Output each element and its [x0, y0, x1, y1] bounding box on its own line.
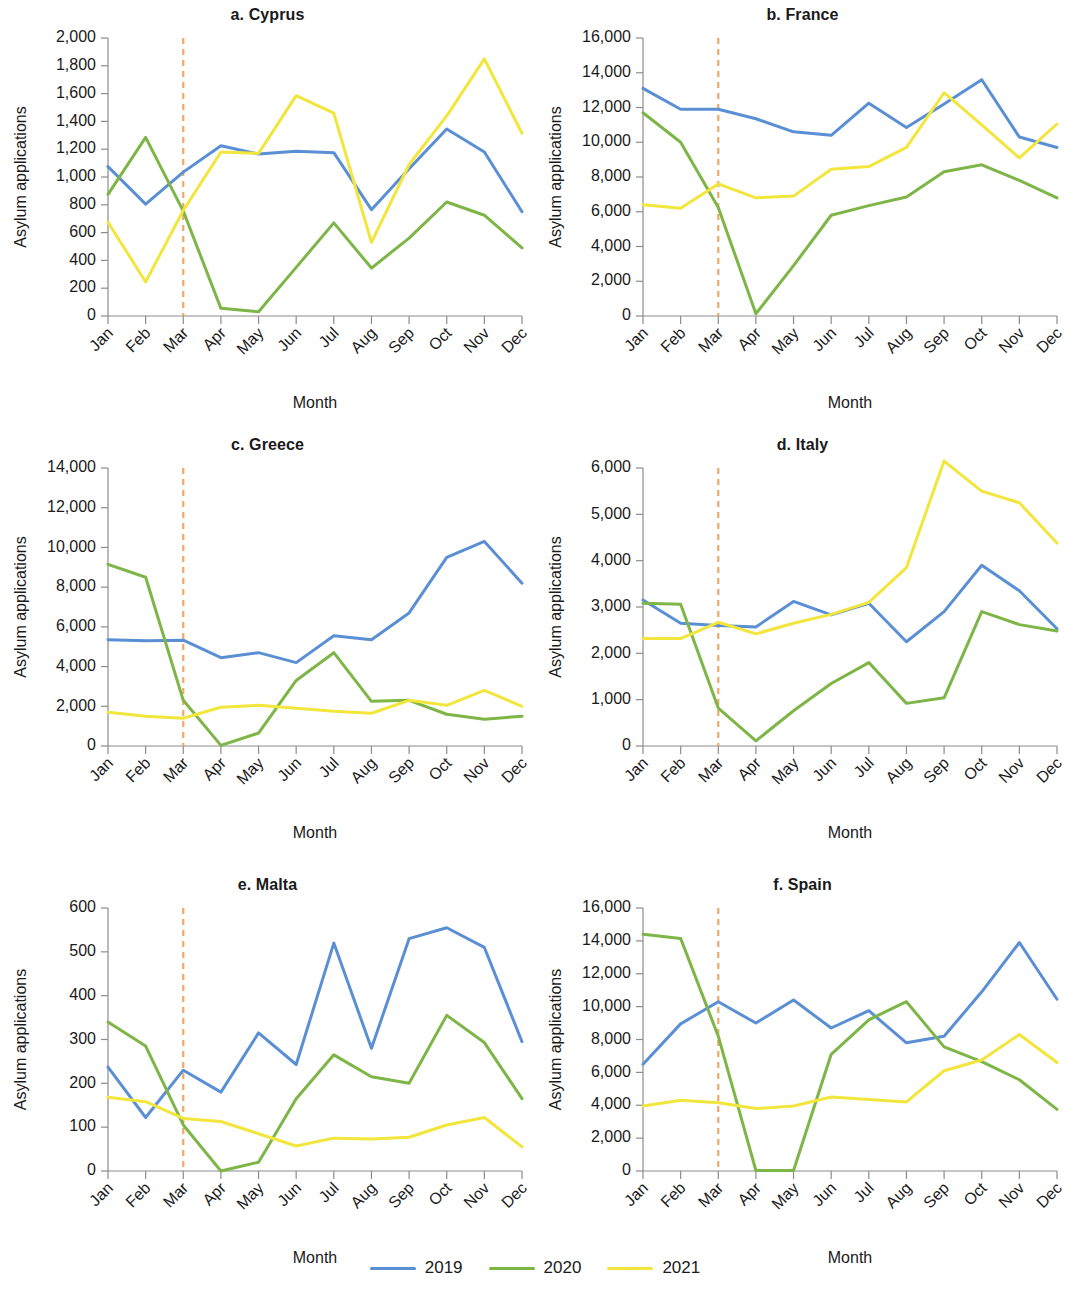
panel-title-greece: c. Greece — [0, 430, 535, 454]
series-line-2019 — [108, 129, 522, 212]
x-tick-label: Jun — [809, 754, 839, 784]
x-tick-label: Sep — [920, 754, 952, 786]
y-tick-label: 0 — [87, 736, 96, 753]
x-tick-label: Aug — [882, 324, 914, 356]
y-tick-label: 8,000 — [591, 167, 631, 184]
x-tick-label: Mar — [160, 1179, 192, 1211]
y-axis-title: Asylum applications — [547, 106, 564, 247]
y-tick-label: 1,400 — [56, 112, 96, 129]
y-tick-label: 16,000 — [582, 28, 631, 45]
x-tick-label: Dec — [1033, 754, 1065, 786]
series-line-2019 — [643, 565, 1057, 641]
x-tick-label: Feb — [657, 754, 689, 786]
y-tick-label: 2,000 — [591, 1128, 631, 1145]
x-tick-label: Jul — [850, 754, 876, 780]
legend-label-2020: 2020 — [544, 1258, 582, 1278]
panel-italy: d. Italy 01,0002,0003,0004,0005,0006,000… — [535, 430, 1070, 870]
x-tick-label: Jan — [86, 754, 116, 784]
y-tick-label: 400 — [69, 986, 96, 1003]
x-tick-label: Jan — [621, 1179, 651, 1209]
y-tick-label: 2,000 — [591, 644, 631, 661]
panel-malta: e. Malta 0100200300400500600JanFebMarApr… — [0, 870, 535, 1255]
y-tick-label: 1,000 — [591, 690, 631, 707]
x-tick-label: Feb — [122, 1179, 154, 1211]
x-tick-label: Feb — [122, 324, 154, 356]
x-tick-label: Nov — [995, 754, 1027, 786]
plot-italy: 01,0002,0003,0004,0005,0006,000JanFebMar… — [535, 454, 1070, 854]
x-tick-label: May — [768, 754, 801, 787]
y-tick-label: 3,000 — [591, 597, 631, 614]
x-tick-label: Aug — [347, 324, 379, 356]
panel-title-malta: e. Malta — [0, 870, 535, 894]
y-tick-label: 5,000 — [591, 505, 631, 522]
y-tick-label: 600 — [69, 223, 96, 240]
x-tick-label: Jan — [621, 324, 651, 354]
series-line-2020 — [108, 137, 522, 311]
asylum-applications-figure: a. Cyprus 02004006008001,0001,2001,4001,… — [0, 0, 1070, 1295]
x-tick-label: Apr — [199, 754, 229, 784]
y-tick-label: 10,000 — [582, 132, 631, 149]
panel-france: b. France 02,0004,0006,0008,00010,00012,… — [535, 0, 1070, 430]
x-tick-label: Oct — [960, 1179, 990, 1209]
x-tick-label: Dec — [498, 1179, 530, 1211]
x-tick-label: Sep — [920, 1179, 952, 1211]
x-tick-label: Sep — [385, 324, 417, 356]
plot-spain: 02,0004,0006,0008,00010,00012,00014,0001… — [535, 894, 1070, 1279]
series-line-2021 — [643, 1035, 1057, 1109]
y-tick-label: 8,000 — [56, 577, 96, 594]
x-tick-label: Dec — [1033, 1179, 1065, 1211]
panel-cyprus: a. Cyprus 02004006008001,0001,2001,4001,… — [0, 0, 535, 430]
y-tick-label: 200 — [69, 278, 96, 295]
series-line-2020 — [643, 113, 1057, 314]
plot-france: 02,0004,0006,0008,00010,00012,00014,0001… — [535, 24, 1070, 424]
y-tick-label: 14,000 — [582, 931, 631, 948]
x-tick-label: Mar — [695, 1179, 727, 1211]
x-tick-label: Dec — [1033, 324, 1065, 356]
series-line-2020 — [108, 1015, 522, 1171]
x-tick-label: Jun — [274, 754, 304, 784]
y-tick-label: 6,000 — [591, 1063, 631, 1080]
x-tick-label: May — [233, 324, 266, 357]
x-tick-label: Nov — [460, 1179, 492, 1211]
y-tick-label: 16,000 — [582, 898, 631, 915]
y-tick-label: 10,000 — [47, 538, 96, 555]
chart-svg-greece: 02,0004,0006,0008,00010,00012,00014,000J… — [0, 454, 535, 854]
y-tick-label: 400 — [69, 251, 96, 268]
y-tick-label: 4,000 — [56, 657, 96, 674]
x-tick-label: May — [233, 754, 266, 787]
legend-item-2020: 2020 — [489, 1258, 582, 1278]
x-tick-label: Feb — [122, 754, 154, 786]
x-tick-label: Mar — [695, 324, 727, 356]
x-tick-label: Apr — [734, 1179, 764, 1209]
y-tick-label: 1,600 — [56, 84, 96, 101]
panel-title-cyprus: a. Cyprus — [0, 0, 535, 24]
x-tick-label: Aug — [347, 1179, 379, 1211]
y-axis-title: Asylum applications — [547, 969, 564, 1110]
y-tick-label: 1,000 — [56, 167, 96, 184]
y-axis-title: Asylum applications — [12, 969, 29, 1110]
chart-svg-france: 02,0004,0006,0008,00010,00012,00014,0001… — [535, 24, 1070, 424]
x-tick-label: May — [768, 324, 801, 357]
panel-spain: f. Spain 02,0004,0006,0008,00010,00012,0… — [535, 870, 1070, 1255]
y-axis-title: Asylum applications — [12, 106, 29, 247]
series-line-2021 — [108, 1097, 522, 1147]
x-tick-label: Dec — [498, 324, 530, 356]
x-tick-label: Sep — [920, 324, 952, 356]
chart-svg-cyprus: 02004006008001,0001,2001,4001,6001,8002,… — [0, 24, 535, 424]
x-tick-label: Aug — [882, 754, 914, 786]
x-tick-label: Apr — [734, 754, 764, 784]
y-tick-label: 100 — [69, 1117, 96, 1134]
x-tick-label: Nov — [460, 324, 492, 356]
x-tick-label: Oct — [425, 754, 455, 784]
panel-title-france: b. France — [535, 0, 1070, 24]
x-tick-label: Aug — [882, 1179, 914, 1211]
x-tick-label: Sep — [385, 754, 417, 786]
x-axis-title: Month — [293, 394, 337, 411]
panel-title-italy: d. Italy — [535, 430, 1070, 454]
x-tick-label: May — [233, 1179, 266, 1212]
x-tick-label: Mar — [160, 324, 192, 356]
y-tick-label: 500 — [69, 942, 96, 959]
y-tick-label: 10,000 — [582, 997, 631, 1014]
y-tick-label: 2,000 — [56, 697, 96, 714]
y-tick-label: 2,000 — [56, 28, 96, 45]
